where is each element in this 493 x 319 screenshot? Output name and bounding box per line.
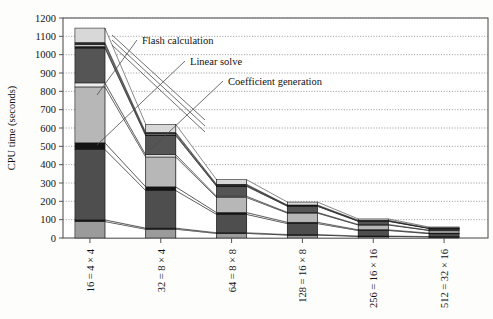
- annotation-flash-calculation: Flash calculation: [142, 35, 214, 46]
- x-axis-label-2: 64 = 8 × 8: [227, 249, 238, 292]
- bar-segment: [75, 83, 105, 87]
- annotation-linear-solve: Linear solve: [190, 56, 243, 67]
- bar-segment: [217, 186, 247, 196]
- bar-segment: [146, 124, 176, 132]
- ytick-label-0: 0: [51, 233, 56, 244]
- x-axis-label-1: 32 = 8 × 4: [156, 248, 167, 292]
- bar-segment: [429, 227, 459, 228]
- bar-segment: [287, 213, 317, 222]
- ytick-label-800: 800: [40, 86, 56, 97]
- x-axis-label-4: 256 = 16 × 16: [368, 249, 379, 308]
- bar-segment: [287, 202, 317, 205]
- ytick-label-100: 100: [40, 214, 56, 225]
- x-axis-label-5: 512 = 32 × 16: [439, 249, 450, 308]
- ytick-label-1200: 1200: [35, 13, 56, 24]
- x-axis-label-0: 16 = 4 × 4: [85, 248, 96, 292]
- y-axis-label: CPU time (seconds): [6, 85, 18, 170]
- bar-segment: [146, 229, 176, 238]
- bar-segment: [358, 230, 388, 236]
- bar-segment: [146, 191, 176, 229]
- chart-canvas: 0100200300400500600700800900100011001200…: [0, 0, 493, 319]
- ytick-label-200: 200: [40, 196, 56, 207]
- ytick-label-500: 500: [40, 141, 56, 152]
- bar-segment: [217, 214, 247, 232]
- bar-segment: [146, 155, 176, 157]
- bar-segment: [75, 28, 105, 42]
- bar-segment: [75, 143, 105, 150]
- cpu-time-stacked-bar-chart: 0100200300400500600700800900100011001200…: [0, 0, 493, 319]
- ytick-label-400: 400: [40, 159, 56, 170]
- ytick-label-700: 700: [40, 104, 56, 115]
- bar-segment: [75, 149, 105, 219]
- bar-segment: [358, 219, 388, 220]
- bar-segment: [146, 136, 176, 155]
- ytick-label-1100: 1100: [35, 31, 56, 42]
- ytick-label-600: 600: [40, 123, 56, 134]
- bar-segment: [75, 44, 105, 46]
- annotation-coefficient-generation: Coefficient generation: [228, 76, 323, 87]
- ytick-label-300: 300: [40, 178, 56, 189]
- bar-segment: [75, 87, 105, 143]
- bar-segment: [75, 222, 105, 239]
- bar-segment: [358, 225, 388, 230]
- bar-segment: [217, 233, 247, 238]
- bar-segment: [287, 224, 317, 235]
- bar-segment: [287, 206, 317, 212]
- bar-segment: [146, 157, 176, 187]
- x-axis-label-3: 128 = 16 × 8: [297, 249, 308, 303]
- bar-segment: [146, 187, 176, 191]
- bar-segment: [217, 180, 247, 185]
- bar-segment: [217, 197, 247, 212]
- ytick-label-900: 900: [40, 68, 56, 79]
- bar-segment: [75, 48, 105, 83]
- ytick-label-1000: 1000: [35, 49, 56, 60]
